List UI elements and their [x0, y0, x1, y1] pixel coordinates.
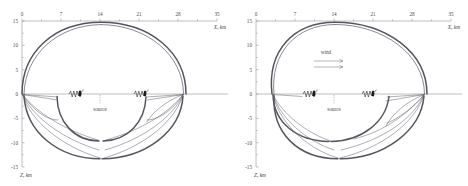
xtick-28: 28 — [175, 11, 181, 17]
x-axis-top — [22, 18, 217, 21]
z-axis-title: Z, km — [20, 172, 32, 178]
figure-container: 0 7 14 21 28 35 X, km — [0, 0, 468, 186]
lower-wavefront-inner-right — [103, 97, 146, 141]
ytick-5: 5 — [15, 67, 18, 73]
ytick-0: 0 — [15, 91, 18, 97]
lower-wavefront-inner-right — [331, 97, 389, 142]
receiver-marker-right — [134, 90, 149, 97]
xtick-28: 28 — [409, 11, 415, 17]
receiver-marker-left — [69, 90, 84, 97]
upper-wavefront-outer-right — [101, 22, 186, 94]
xtick-35: 35 — [448, 11, 454, 17]
ray-bundle-left — [273, 95, 338, 159]
xtick-21: 21 — [136, 11, 142, 17]
ytick-5: 5 — [249, 67, 252, 73]
x-axis-title: X, km — [447, 24, 460, 30]
receiver-marker-left — [303, 90, 318, 97]
upper-wavefront-outer-left — [271, 22, 335, 94]
lower-wavefront-outer-right — [340, 96, 424, 159]
lower-wavefront-inner-left — [273, 96, 329, 142]
xtick-35: 35 — [214, 11, 220, 17]
receiver-marker-right — [362, 90, 377, 97]
ytick-m5: -5 — [248, 115, 253, 121]
panel-with-wind: 0 7 14 21 28 35 X, km — [234, 0, 468, 186]
z-axis-title: Z, km — [254, 172, 266, 178]
wind-arrow-upper — [314, 59, 343, 62]
upper-wavefront-outer-right — [335, 22, 427, 94]
xtick-0: 0 — [21, 11, 24, 17]
ytick-15: 15 — [13, 18, 19, 24]
xtick-7: 7 — [60, 11, 63, 17]
xtick-7: 7 — [294, 11, 297, 17]
ytick-m10: -10 — [11, 140, 18, 146]
upper-wavefront-inner-left — [24, 25, 101, 94]
ytick-10: 10 — [247, 42, 253, 48]
panel-no-wind: 0 7 14 21 28 35 X, km — [0, 0, 234, 186]
lower-wavefront-outer-right — [102, 96, 183, 159]
xtick-0: 0 — [255, 11, 258, 17]
ytick-m15: -15 — [11, 164, 18, 170]
xtick-21: 21 — [370, 11, 376, 17]
lower-wavefront-outer-left — [24, 96, 100, 159]
upper-wavefront-outer-left — [22, 22, 101, 94]
wind-label: wind — [321, 49, 332, 55]
ytick-15: 15 — [247, 18, 253, 24]
lower-wavefront-inner-left — [57, 97, 99, 142]
wind-arrow-lower — [314, 65, 343, 68]
ytick-10: 10 — [13, 42, 19, 48]
ray-bundle-right — [104, 95, 183, 159]
ytick-m5: -5 — [14, 115, 19, 121]
ytick-m15: -15 — [245, 164, 252, 170]
ytick-0: 0 — [249, 91, 252, 97]
upper-wavefront-inner-right — [335, 25, 425, 95]
upper-wavefront-inner-right — [101, 25, 184, 94]
xtick-14: 14 — [97, 11, 103, 17]
source-label: source — [93, 106, 107, 112]
ytick-m10: -10 — [245, 140, 252, 146]
x-axis-top — [256, 18, 451, 21]
lower-wavefront-outer-left — [274, 96, 338, 159]
upper-wavefront-inner-left — [274, 25, 335, 95]
x-axis-title: X, km — [213, 24, 226, 30]
xtick-14: 14 — [331, 11, 337, 17]
source-label: source — [327, 106, 341, 112]
